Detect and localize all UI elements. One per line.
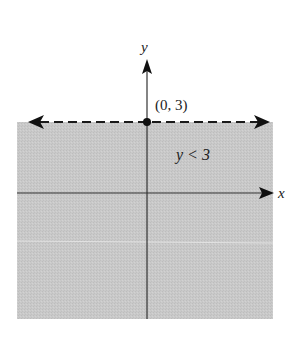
region-label: y < 3 xyxy=(174,146,210,164)
x-axis-label: x xyxy=(277,185,285,201)
point-label: (0, 3) xyxy=(155,97,188,114)
region-label-text: y < 3 xyxy=(174,146,210,164)
inequality-graph: x y (0, 3) y < 3 xyxy=(0,0,298,340)
shaded-region xyxy=(17,122,273,319)
y-axis-label: y xyxy=(139,39,148,55)
point-0-3 xyxy=(143,118,151,126)
